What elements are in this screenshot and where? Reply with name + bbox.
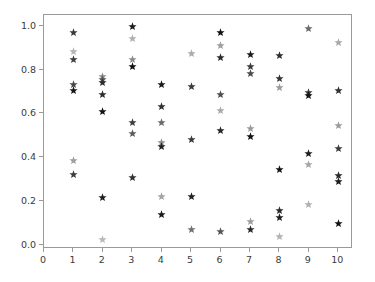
data-point-marker [216, 90, 225, 99]
data-point-marker [246, 124, 255, 133]
y-tick-mark [39, 69, 43, 70]
x-tick-mark [43, 248, 44, 252]
data-point-marker [69, 170, 78, 179]
data-point-marker [216, 227, 225, 236]
data-point-marker [98, 235, 107, 244]
y-tick-mark [39, 25, 43, 26]
y-axis-tick-labels: 0.00.20.40.60.81.0 [8, 0, 36, 282]
data-point-marker [157, 138, 166, 147]
x-tick-mark [190, 248, 191, 252]
data-point-marker [334, 86, 343, 95]
x-tick-label: 1 [59, 254, 85, 265]
data-point-marker [275, 232, 284, 241]
data-point-marker [275, 74, 284, 83]
y-tick-mark [39, 112, 43, 113]
x-tick-label: 3 [118, 254, 144, 265]
data-point-marker [98, 78, 107, 87]
y-tick-label: 0.2 [10, 194, 36, 205]
data-point-marker [275, 165, 284, 174]
data-point-marker [128, 118, 137, 127]
data-point-marker [128, 34, 137, 43]
data-point-marker [187, 192, 196, 201]
x-tick-label: 6 [207, 254, 233, 265]
data-point-marker [216, 126, 225, 135]
data-point-marker [69, 80, 78, 89]
data-point-marker [216, 41, 225, 50]
plot-data-area [44, 15, 351, 247]
y-tick-label: 0.0 [10, 238, 36, 249]
data-point-marker [334, 219, 343, 228]
x-tick-label: 4 [148, 254, 174, 265]
data-point-marker [157, 142, 166, 151]
data-point-marker [157, 80, 166, 89]
data-point-marker [304, 88, 313, 97]
plot-axes-frame [43, 14, 352, 248]
data-point-marker [304, 160, 313, 169]
data-point-marker [187, 225, 196, 234]
x-tick-mark [337, 248, 338, 252]
data-point-marker [98, 193, 107, 202]
x-tick-label: 9 [295, 254, 321, 265]
data-point-marker [157, 102, 166, 111]
x-tick-mark [278, 248, 279, 252]
data-point-marker [157, 192, 166, 201]
data-point-marker [246, 217, 255, 226]
x-tick-label: 0 [30, 254, 56, 265]
data-point-marker [304, 200, 313, 209]
data-point-marker [246, 225, 255, 234]
y-tick-label: 0.8 [10, 63, 36, 74]
data-point-marker [69, 47, 78, 56]
data-point-marker [98, 90, 107, 99]
x-tick-label: 8 [265, 254, 291, 265]
x-tick-label: 10 [324, 254, 350, 265]
data-point-marker [334, 121, 343, 130]
x-tick-mark [102, 248, 103, 252]
y-tick-label: 0.6 [10, 107, 36, 118]
data-point-marker [216, 28, 225, 37]
data-point-marker [216, 53, 225, 62]
y-tick-mark [39, 156, 43, 157]
data-point-marker [304, 24, 313, 33]
data-point-marker [98, 75, 107, 84]
data-point-marker [304, 149, 313, 158]
data-point-marker [246, 62, 255, 71]
x-tick-label: 2 [89, 254, 115, 265]
data-point-marker [187, 49, 196, 58]
x-tick-mark [72, 248, 73, 252]
data-point-marker [157, 118, 166, 127]
y-tick-mark [39, 244, 43, 245]
data-point-marker [69, 86, 78, 95]
x-tick-label: 7 [236, 254, 262, 265]
y-tick-mark [39, 200, 43, 201]
data-point-marker [69, 55, 78, 64]
x-tick-mark [161, 248, 162, 252]
x-tick-mark [249, 248, 250, 252]
data-point-marker [334, 177, 343, 186]
x-tick-mark [308, 248, 309, 252]
data-point-marker [246, 50, 255, 59]
x-axis-tick-labels: 012345678910 [0, 254, 375, 270]
data-point-marker [157, 210, 166, 219]
data-point-marker [304, 91, 313, 100]
data-point-marker [128, 129, 137, 138]
x-tick-mark [220, 248, 221, 252]
data-point-marker [275, 213, 284, 222]
data-point-marker [334, 144, 343, 153]
data-point-marker [69, 156, 78, 165]
data-point-marker [69, 28, 78, 37]
x-tick-label: 5 [177, 254, 203, 265]
data-point-marker [98, 72, 107, 81]
data-point-marker [128, 22, 137, 31]
data-point-marker [187, 135, 196, 144]
x-tick-mark [131, 248, 132, 252]
data-point-marker [275, 206, 284, 215]
data-point-marker [246, 69, 255, 78]
data-point-marker [275, 83, 284, 92]
data-point-marker [334, 171, 343, 180]
y-tick-label: 1.0 [10, 19, 36, 30]
data-point-marker [128, 55, 137, 64]
data-point-marker [246, 132, 255, 141]
y-tick-label: 0.4 [10, 151, 36, 162]
data-point-marker [334, 38, 343, 47]
scatter-plot-figure: 0.00.20.40.60.81.0 012345678910 [0, 0, 375, 282]
